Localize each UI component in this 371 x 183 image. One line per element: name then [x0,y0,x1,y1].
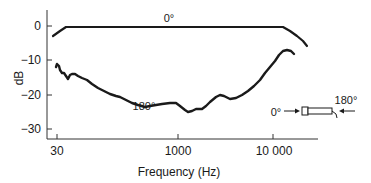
y-tick-label: −10 [21,53,42,67]
frequency-response-chart: 0 −10 −20 −30 30 1000 10 000 dB Frequenc… [0,0,371,183]
y-tick-label: −20 [21,88,42,102]
y-tick-label: −30 [21,122,42,136]
inset-front-label: 0° [271,106,282,118]
curve-label-0: 0° [164,12,175,24]
x-tick-label: 10 000 [256,144,293,158]
y-axis [47,10,52,139]
x-tick-label: 1000 [165,144,192,158]
y-axis-title: dB [12,71,26,86]
curve-180-degrees [56,50,294,112]
x-axis [47,134,318,139]
y-tick-label: 0 [34,19,41,33]
arrow-left-icon [339,109,344,114]
x-axis-title: Frequency (Hz) [138,165,221,179]
x-tick-label: 30 [50,144,64,158]
microphone-icon [302,107,337,118]
curve-label-180: 180° [133,100,156,112]
curve-0-degrees [53,27,307,46]
arrow-right-icon [295,109,300,114]
inset-rear-label: 180° [335,94,358,106]
microphone-orientation-inset: 0° 180° [271,94,358,118]
